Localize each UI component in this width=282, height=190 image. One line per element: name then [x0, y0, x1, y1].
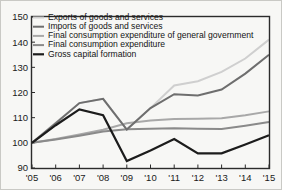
legend-label: Gross capital formation	[48, 49, 137, 59]
chart-container: 90100110120130140150 '05'06'07'08'09'10'…	[0, 0, 282, 190]
y-axis-tick-label: 100	[12, 137, 28, 148]
y-axis-tick-label: 140	[12, 37, 28, 48]
x-axis-tick-label: '12	[192, 172, 204, 183]
x-axis-tick-label: '05	[26, 172, 38, 183]
x-axis-tick-label: '08	[97, 172, 109, 183]
x-axis-tick-label: '06	[50, 172, 62, 183]
x-axis-tick-label: '07	[73, 172, 85, 183]
x-axis-tick-label: '15	[263, 172, 275, 183]
x-axis-tick-label: '14	[239, 172, 251, 183]
y-axis-tick-label: 130	[12, 62, 28, 73]
x-axis-tick-label: '10	[144, 172, 156, 183]
y-axis-tick-label: 150	[12, 11, 28, 22]
x-axis-tick-label: '13	[215, 172, 227, 183]
x-axis-tick-label: '11	[168, 172, 180, 183]
y-axis-tick-label: 110	[13, 112, 28, 123]
x-axis-tick-label: '09	[121, 172, 133, 183]
y-axis-tick-label: 120	[12, 87, 28, 98]
line-chart: 90100110120130140150 '05'06'07'08'09'10'…	[0, 0, 282, 190]
